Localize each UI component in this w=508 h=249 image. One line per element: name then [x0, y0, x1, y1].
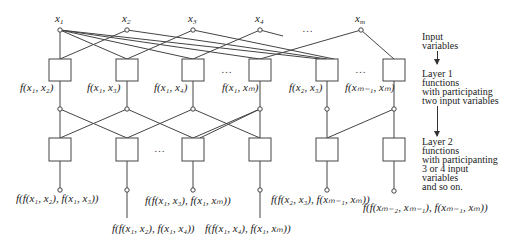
- input-ellipsis: …: [302, 22, 314, 34]
- layer1-box-4: [249, 59, 271, 81]
- input-node-x3: [191, 28, 195, 32]
- layer1-label-6: f(xₘ₋₁, xₘ): [345, 81, 395, 94]
- layer1-ellipsis-2: …: [355, 63, 367, 75]
- layer2-outputs: [58, 161, 396, 218]
- input-label-xm: xm: [354, 12, 365, 26]
- layer1-labels: f(x₁, x₂) f(x₁, x₃) f(x₁, x₄) f(x₁, xₘ) …: [20, 81, 395, 94]
- layer1-label-2: f(x₁, x₃): [87, 81, 121, 94]
- input-node-x2: [125, 28, 129, 32]
- legend-arrow-2: [437, 106, 438, 136]
- input-label-x4: x4: [254, 12, 264, 26]
- input-connections: [60, 30, 394, 59]
- input-nodes: [58, 28, 363, 32]
- layer2-boxes: …: [49, 138, 405, 161]
- layer1-box-5: [316, 59, 338, 81]
- layer2-labels: f(f(x₁, x₂), f(x₁, x₃)) f(f(x₁, x₂), f(x…: [16, 192, 488, 235]
- layer2-label-5: f(f(x₂, x₃), f(xₘ₋₁, xₘ)): [271, 193, 370, 206]
- layer2-label-2: f(f(x₁, x₂), f(x₁, x₄)): [112, 222, 195, 235]
- layer2-box-2: [116, 138, 138, 161]
- layer2-label-3: f(f(x₁, x₃), f(x₁, xₘ)): [145, 194, 231, 207]
- layer2-label-4: f(f(x₁, x₄), f(x₁, xₘ)): [205, 222, 291, 235]
- layer1-box-6: [383, 59, 405, 81]
- layer2-connections: [60, 109, 394, 138]
- legend-layer2: Layer 2 functions with participanting 3 …: [422, 137, 498, 191]
- input-node-x4: [258, 28, 262, 32]
- layer2-box-1: [49, 138, 71, 161]
- layer1-box-3: [182, 59, 204, 81]
- input-labels: x1 x2 x3 x4 xm …: [54, 12, 365, 34]
- input-label-x2: x2: [121, 12, 131, 26]
- layer1-ellipsis-1: …: [221, 63, 233, 75]
- layer1-label-4: f(x₁, xₘ): [222, 81, 259, 94]
- layer2-box-4: [249, 138, 271, 161]
- layer1-label-5: f(x₂, x₃): [289, 81, 323, 94]
- input-node-x1: [58, 28, 62, 32]
- input-label-x3: x3: [187, 12, 197, 26]
- layer2-box-6: [383, 138, 405, 161]
- layer2-label-6: f(f(xₘ₋₂, xₘ₋₁), f(xₘ₋₁, xₘ)): [363, 201, 488, 214]
- legend-layer1: Layer 1 functions with participating two…: [422, 69, 499, 105]
- input-label-x1: x1: [54, 12, 63, 26]
- layer1-box-2: [116, 59, 138, 81]
- layer2-box-5: [316, 138, 338, 161]
- input-node-xm: [359, 28, 363, 32]
- layer1-label-1: f(x₁, x₂): [20, 81, 54, 94]
- layer1-output-nodes: [58, 107, 396, 111]
- layer1-boxes: … …: [49, 59, 405, 81]
- layer2-label-1: f(f(x₁, x₂), f(x₁, x₃)): [16, 192, 99, 205]
- legend-arrow-1: [437, 51, 438, 64]
- layer2-box-3: [182, 138, 204, 161]
- legend-input-variables: Input variables: [422, 32, 458, 50]
- layer2-ellipsis: …: [154, 142, 166, 154]
- layer1-label-3: f(x₁, x₄): [154, 81, 188, 94]
- layer1-box-1: [49, 59, 71, 81]
